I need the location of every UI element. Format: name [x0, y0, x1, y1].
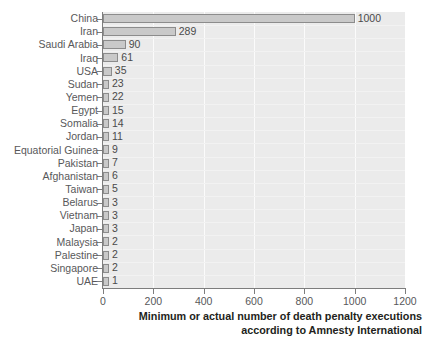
x-axis-tick-label: 1200	[393, 295, 416, 308]
x-axis-tick-label: 800	[296, 295, 314, 308]
bar-row[interactable]: 1	[103, 275, 405, 288]
bar[interactable]	[103, 119, 109, 128]
x-axis-tick	[254, 289, 255, 294]
bar-row[interactable]: 11	[103, 130, 405, 143]
bar[interactable]	[103, 198, 109, 207]
x-axis-tick	[204, 289, 205, 294]
bar-value-label: 22	[112, 90, 124, 103]
y-axis-labels: ChinaIranSaudi ArabiaIraqUSASudanYemenEg…	[0, 12, 98, 288]
bar-value-label: 2	[112, 235, 118, 248]
y-axis-label: Afghanistan	[2, 170, 98, 183]
bar-chart: 1000289906135232215141197653332221 China…	[0, 0, 440, 342]
y-axis-label: UAE	[2, 275, 98, 288]
bar-row[interactable]: 23	[103, 78, 405, 91]
bar[interactable]	[103, 159, 109, 168]
bar[interactable]	[103, 211, 109, 220]
bar-row[interactable]: 3	[103, 196, 405, 209]
bar-value-label: 5	[112, 182, 118, 195]
bar-row[interactable]: 3	[103, 209, 405, 222]
bar-value-label: 289	[179, 25, 197, 38]
bar-row[interactable]: 6	[103, 170, 405, 183]
bar-value-label: 11	[112, 130, 123, 143]
bar-value-label: 1	[112, 274, 118, 287]
y-axis-label: Pakistan	[2, 157, 98, 170]
bar[interactable]	[103, 27, 176, 36]
bar-row[interactable]: 14	[103, 117, 405, 130]
bar[interactable]	[103, 14, 355, 23]
bar[interactable]	[103, 93, 109, 102]
y-axis-label: Yemen	[2, 91, 98, 104]
bar[interactable]	[103, 80, 109, 89]
bar-row[interactable]: 2	[103, 262, 405, 275]
x-axis-tick	[153, 289, 154, 294]
bar[interactable]	[103, 40, 126, 49]
bar[interactable]	[103, 185, 109, 194]
y-axis-label: Saudi Arabia	[2, 38, 98, 51]
bar-row[interactable]: 61	[103, 51, 405, 64]
bar[interactable]	[103, 106, 109, 115]
y-axis-label: Equatorial Guinea	[2, 144, 98, 157]
bar[interactable]	[103, 145, 109, 154]
bar[interactable]	[103, 237, 109, 246]
y-axis-label: USA	[2, 65, 98, 78]
x-axis-title-line-1: Minimum or actual number of death penalt…	[100, 310, 422, 324]
bar[interactable]	[103, 251, 109, 260]
bar[interactable]	[103, 277, 109, 286]
y-axis-label: China	[2, 12, 98, 25]
bar-value-label: 9	[112, 143, 118, 156]
bar-row[interactable]: 7	[103, 157, 405, 170]
bar-value-label: 15	[112, 104, 124, 117]
bar-row[interactable]: 90	[103, 38, 405, 51]
bar-value-label: 2	[112, 261, 118, 274]
bar-row[interactable]: 2	[103, 249, 405, 262]
x-axis-tick	[304, 289, 305, 294]
y-axis-label: Sudan	[2, 78, 98, 91]
bar-value-label: 90	[129, 38, 141, 51]
x-axis-tick	[405, 289, 406, 294]
bar[interactable]	[103, 67, 112, 76]
bar-value-label: 7	[112, 156, 118, 169]
bar-row[interactable]: 2	[103, 235, 405, 248]
bar-value-label: 2	[112, 248, 118, 261]
bar-value-label: 6	[112, 169, 118, 182]
x-axis-title: Minimum or actual number of death penalt…	[100, 310, 422, 337]
x-axis-tick-label: 0	[100, 295, 106, 308]
bar-row[interactable]: 289	[103, 25, 405, 38]
bar-row[interactable]: 5	[103, 183, 405, 196]
y-axis-label: Jordan	[2, 130, 98, 143]
y-axis-label: Taiwan	[2, 183, 98, 196]
y-axis-label: Singapore	[2, 262, 98, 275]
x-axis-tick-label: 600	[245, 295, 263, 308]
bar-value-label: 61	[121, 51, 133, 64]
x-axis-tick-label: 1000	[343, 295, 366, 308]
bar-value-label: 3	[112, 209, 118, 222]
x-axis-tick	[103, 289, 104, 294]
bar-value-label: 3	[112, 222, 118, 235]
x-axis-title-line-2: according to Amnesty International	[100, 324, 422, 338]
y-axis-label: Japan	[2, 222, 98, 235]
y-axis-label: Belarus	[2, 196, 98, 209]
bar[interactable]	[103, 53, 118, 62]
bar-row[interactable]: 9	[103, 143, 405, 156]
bar-row[interactable]: 1000	[103, 12, 405, 25]
bar-row[interactable]: 15	[103, 104, 405, 117]
bar-value-label: 1000	[358, 12, 381, 25]
bar-row[interactable]: 35	[103, 65, 405, 78]
bar[interactable]	[103, 132, 109, 141]
y-axis-label: Vietnam	[2, 209, 98, 222]
y-axis-label: Palestine	[2, 249, 98, 262]
bar-row[interactable]: 22	[103, 91, 405, 104]
bar[interactable]	[103, 264, 109, 273]
y-axis-label: Somalia	[2, 117, 98, 130]
bar[interactable]	[103, 224, 109, 233]
bar-row[interactable]: 3	[103, 222, 405, 235]
x-axis-tick-label: 200	[145, 295, 163, 308]
bar-value-label: 23	[112, 77, 124, 90]
bar-value-label: 35	[115, 64, 127, 77]
y-axis-label: Iran	[2, 25, 98, 38]
bar[interactable]	[103, 172, 109, 181]
y-axis-label: Iraq	[2, 52, 98, 65]
bar-value-label: 14	[112, 117, 124, 130]
y-axis-label: Egypt	[2, 104, 98, 117]
y-axis-label: Malaysia	[2, 236, 98, 249]
